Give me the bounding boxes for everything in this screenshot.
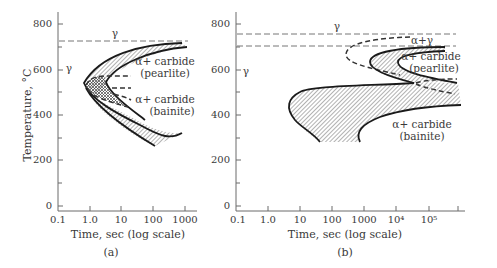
alpha-gamma-label: α+γ bbox=[411, 34, 433, 46]
x-tick-label: 100 bbox=[143, 214, 162, 225]
bainite-label-1: α+ carbide bbox=[135, 93, 194, 105]
y-tick-label: 200 bbox=[33, 154, 52, 165]
bainite-label-1: α+ carbide bbox=[392, 118, 451, 130]
y-tick-label: 800 bbox=[33, 18, 52, 29]
pearlite-label-2: (pearlite) bbox=[409, 62, 459, 74]
gamma-left-label: γ bbox=[66, 62, 72, 74]
pearlite-label-2: (pearlite) bbox=[140, 67, 190, 79]
gamma-top-label: γ bbox=[334, 20, 340, 32]
x-tick-label: 10⁵ bbox=[421, 214, 438, 225]
bainite-label-2: (bainite) bbox=[399, 130, 444, 142]
y-tick-label: 600 bbox=[211, 64, 230, 75]
x-tick-label: 1000 bbox=[351, 214, 376, 225]
y-tick-label: 0 bbox=[46, 200, 52, 211]
x-tick-label: 0.1 bbox=[50, 214, 66, 225]
y-tick-label: 800 bbox=[211, 18, 230, 29]
y-tick-label: 400 bbox=[33, 109, 52, 120]
x-tick-label: 10 bbox=[115, 214, 128, 225]
panel-caption: (b) bbox=[337, 246, 353, 259]
ttt-diagram-figure: 800 600 400 200 0 0.1 1.0 10 100 1000 Te… bbox=[0, 0, 497, 268]
y-ticks bbox=[58, 24, 63, 206]
x-axis-title: Time, sec (log scale) bbox=[71, 228, 185, 241]
pearlite-label-1: α+ carbide bbox=[401, 50, 460, 62]
x-ticks bbox=[268, 206, 458, 211]
pearlite-label-1: α+ carbide bbox=[135, 55, 194, 67]
x-tick-label: 10 bbox=[294, 214, 307, 225]
panel-caption: (a) bbox=[103, 246, 118, 259]
y-tick-label: 200 bbox=[211, 154, 230, 165]
y-tick-label: 600 bbox=[33, 64, 52, 75]
x-tick-label: 10⁴ bbox=[388, 214, 405, 225]
panel-b: 800 600 400 200 0 0.1 1.0 10 100 1000 10… bbox=[211, 12, 465, 259]
y-ticks bbox=[236, 24, 241, 206]
x-tick-label: 1.0 bbox=[82, 214, 98, 225]
gamma-top-label: γ bbox=[112, 27, 118, 39]
x-tick-label: 0.1 bbox=[230, 214, 246, 225]
x-ticks bbox=[90, 206, 185, 211]
x-tick-label: 1.0 bbox=[260, 214, 276, 225]
gamma-left-label: γ bbox=[243, 65, 249, 77]
x-tick-label: 1000 bbox=[172, 214, 197, 225]
panel-a: 800 600 400 200 0 0.1 1.0 10 100 1000 Te… bbox=[21, 12, 198, 259]
x-axis-title: Time, sec (log scale) bbox=[288, 228, 402, 241]
y-tick-label: 400 bbox=[211, 109, 230, 120]
x-tick-label: 100 bbox=[322, 214, 341, 225]
y-tick-label: 0 bbox=[224, 200, 230, 211]
bainite-label-2: (bainite) bbox=[149, 105, 194, 117]
y-axis-title: Temperature, °C bbox=[21, 69, 34, 162]
